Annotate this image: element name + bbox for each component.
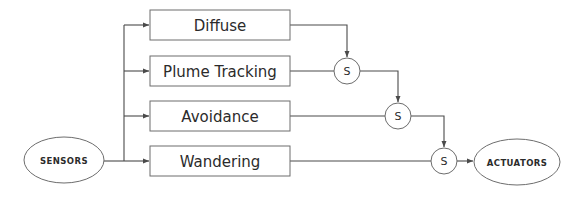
diagram-canvas: SENSORS Diffuse Plume Tracking Avoidance… — [0, 0, 566, 198]
node-suppressor-2[interactable]: S — [385, 103, 411, 129]
node-suppressor-3[interactable]: S — [431, 148, 457, 174]
plume-tracking-label: Plume Tracking — [163, 63, 277, 81]
sensors-label: SENSORS — [40, 156, 88, 166]
suppressor-2-label: S — [395, 110, 402, 123]
wandering-label: Wandering — [180, 153, 261, 171]
connector-layer — [104, 25, 473, 161]
avoidance-label: Avoidance — [181, 108, 258, 126]
node-plume-tracking[interactable]: Plume Tracking — [150, 56, 290, 86]
node-avoidance[interactable]: Avoidance — [150, 101, 290, 131]
actuators-label: ACTUATORS — [487, 158, 547, 168]
node-suppressor-1[interactable]: S — [334, 58, 360, 84]
connector-suppressor-1-to-suppressor-2 — [360, 71, 398, 102]
node-sensors[interactable]: SENSORS — [24, 137, 104, 183]
diffuse-label: Diffuse — [194, 17, 247, 35]
node-actuators[interactable]: ACTUATORS — [474, 139, 560, 185]
suppressor-1-label: S — [344, 65, 351, 78]
node-wandering[interactable]: Wandering — [150, 146, 290, 176]
connector-suppressor-2-to-suppressor-3 — [411, 116, 444, 147]
subsumption-architecture-diagram: SENSORS Diffuse Plume Tracking Avoidance… — [0, 0, 566, 198]
suppressor-3-label: S — [441, 155, 448, 168]
node-diffuse[interactable]: Diffuse — [150, 10, 290, 40]
connector-diffuse-to-suppressor-1 — [290, 25, 347, 57]
